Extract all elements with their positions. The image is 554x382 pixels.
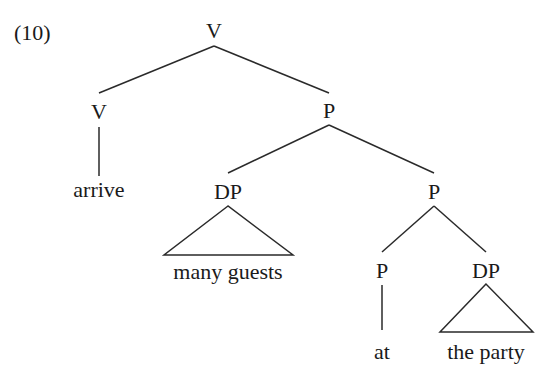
node-dp-left: DP (214, 179, 242, 204)
edge-p-plow (382, 206, 434, 252)
edge-v-v (99, 46, 214, 93)
node-root-v: V (206, 18, 222, 43)
example-number: (10) (14, 20, 51, 45)
node-p-low: P (376, 258, 388, 283)
triangle-the-party (440, 284, 533, 332)
edge-p-dp (228, 125, 329, 173)
tree-edges (99, 46, 533, 332)
triangle-many-guests (164, 206, 293, 255)
edge-p-p (329, 125, 434, 173)
leaf-at: at (374, 339, 390, 364)
node-v-left: V (91, 99, 107, 124)
node-dp-low: DP (472, 258, 500, 283)
tree-nodes: V V P DP P P DP arrive many guests at th… (73, 18, 524, 364)
leaf-many-guests: many guests (173, 259, 282, 284)
leaf-the-party: the party (447, 339, 525, 364)
syntax-tree: (10) V V P DP P P DP arrive many guests … (0, 0, 554, 382)
node-p-right: P (428, 179, 440, 204)
edge-p-dplow (434, 206, 486, 252)
node-p-mid: P (323, 98, 335, 123)
leaf-arrive: arrive (73, 177, 124, 202)
edge-v-p (214, 46, 329, 93)
